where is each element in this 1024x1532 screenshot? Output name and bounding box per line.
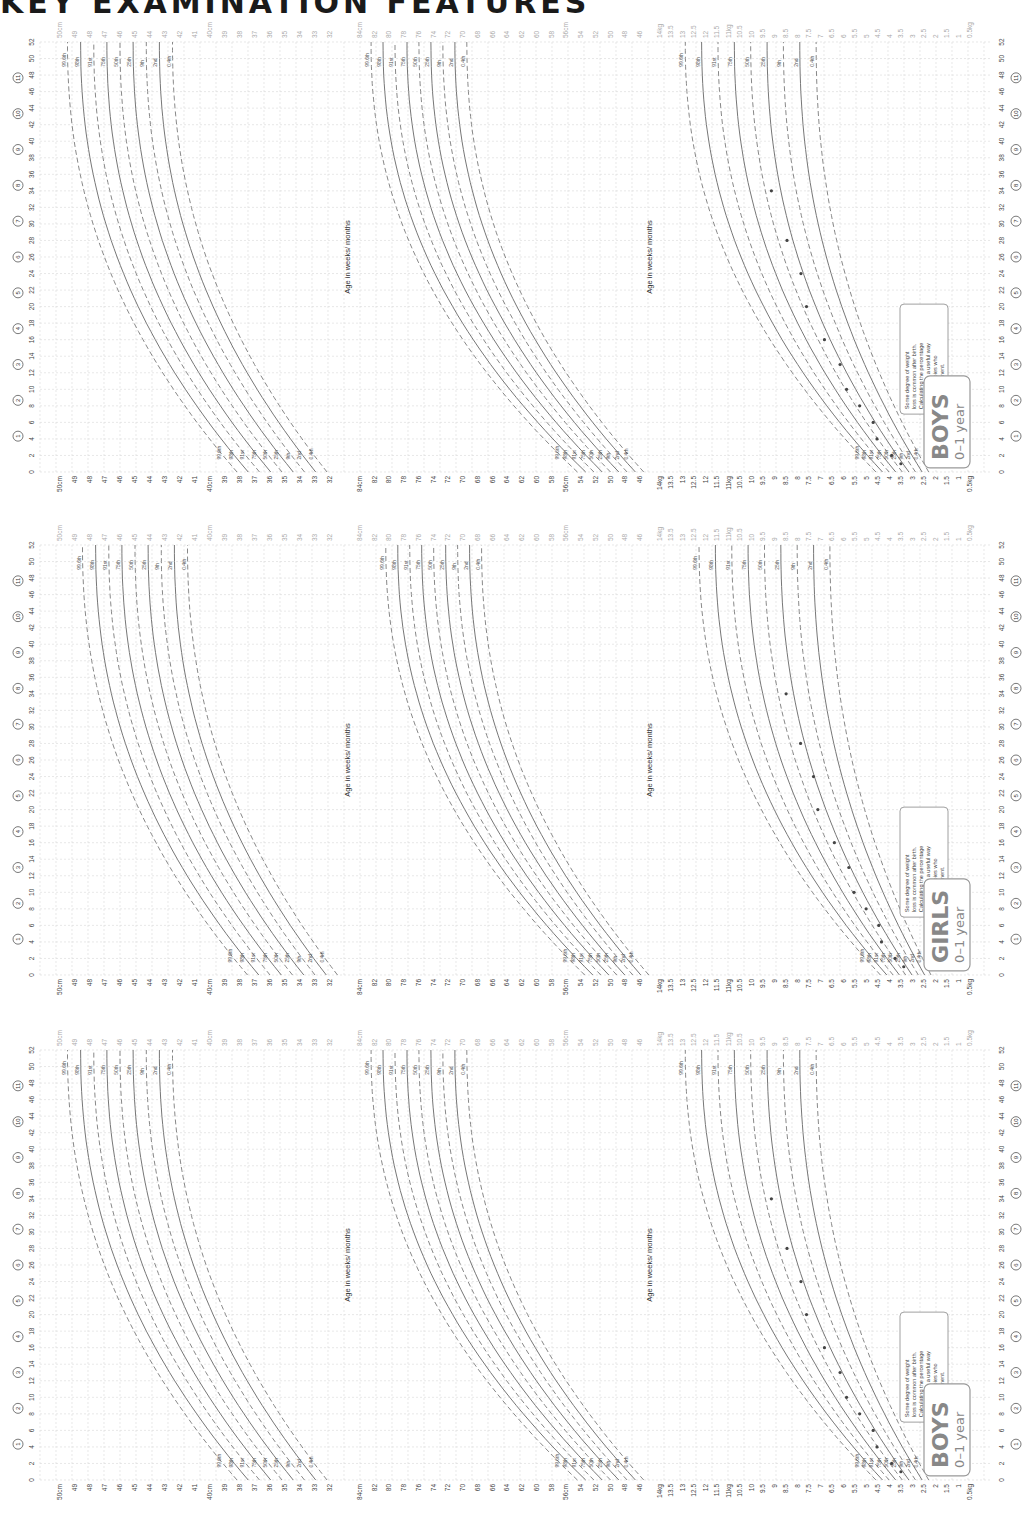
svg-text:99.6th: 99.6th [364, 53, 370, 67]
svg-text:16: 16 [28, 839, 35, 847]
svg-text:6: 6 [998, 1428, 1005, 1432]
svg-text:52: 52 [592, 979, 599, 987]
svg-text:43: 43 [161, 1484, 168, 1492]
svg-text:24: 24 [28, 1278, 35, 1286]
growth-chart-boys-top: 0022446688101012121414161618182020222224… [0, 22, 1024, 512]
svg-text:13.5: 13.5 [667, 1033, 674, 1046]
svg-text:18: 18 [28, 319, 35, 327]
svg-text:9: 9 [771, 1042, 778, 1046]
svg-text:0.4th: 0.4th [916, 951, 922, 962]
svg-text:99.6th: 99.6th [859, 948, 865, 962]
svg-text:58: 58 [548, 1038, 555, 1046]
svg-text:4: 4 [998, 940, 1005, 944]
svg-text:50th: 50th [744, 57, 750, 67]
svg-text:34: 34 [296, 476, 303, 484]
svg-text:0: 0 [998, 1478, 1005, 1482]
svg-text:11.5: 11.5 [713, 476, 720, 489]
svg-text:66: 66 [489, 30, 496, 38]
svg-text:46: 46 [998, 591, 1005, 599]
measurement-dot [875, 1445, 878, 1448]
svg-text:46: 46 [116, 979, 123, 987]
svg-text:13: 13 [679, 979, 686, 987]
svg-text:5: 5 [863, 1484, 870, 1488]
chart-badge: GIRLS0–1 year [924, 879, 970, 971]
svg-text:5.5: 5.5 [851, 29, 858, 38]
svg-text:42: 42 [28, 121, 35, 129]
growth-chart-svg: 0022446688101012121414161618182020222224… [0, 22, 1024, 512]
svg-text:75th: 75th [115, 560, 121, 570]
svg-text:52: 52 [592, 1038, 599, 1046]
svg-text:91st: 91st [873, 953, 879, 963]
svg-text:6: 6 [840, 34, 847, 38]
svg-text:9th: 9th [898, 452, 904, 459]
svg-text:5.5: 5.5 [851, 476, 858, 485]
svg-text:10: 10 [1013, 110, 1019, 117]
svg-text:37: 37 [251, 1484, 258, 1492]
svg-text:36: 36 [28, 170, 35, 178]
svg-text:62: 62 [518, 1038, 525, 1046]
svg-text:98th: 98th [866, 953, 872, 963]
svg-text:4.5: 4.5 [874, 29, 881, 38]
svg-text:11kg: 11kg [725, 1484, 733, 1498]
svg-text:20: 20 [28, 806, 35, 814]
svg-text:41: 41 [191, 1484, 198, 1492]
svg-text:34: 34 [28, 690, 35, 698]
svg-text:45: 45 [131, 30, 138, 38]
svg-text:72: 72 [444, 30, 451, 38]
svg-text:44: 44 [28, 1112, 35, 1120]
svg-text:42: 42 [176, 979, 183, 987]
svg-text:98th: 98th [89, 560, 95, 570]
svg-text:6.5: 6.5 [828, 532, 835, 541]
age-axis: 0022446688101012121414161618182020222224… [13, 541, 1021, 977]
svg-text:60: 60 [533, 30, 540, 38]
svg-text:0.4th: 0.4th [319, 951, 325, 962]
svg-text:34: 34 [296, 1484, 303, 1492]
svg-text:49: 49 [71, 1484, 78, 1492]
svg-text:75th: 75th [727, 57, 733, 67]
svg-text:8: 8 [794, 476, 801, 480]
svg-text:74: 74 [430, 533, 437, 541]
svg-text:66: 66 [489, 533, 496, 541]
svg-text:13: 13 [679, 1484, 686, 1492]
svg-text:12.5: 12.5 [690, 979, 697, 992]
svg-text:50: 50 [28, 1063, 35, 1071]
svg-text:10.5: 10.5 [736, 25, 743, 38]
svg-text:52: 52 [998, 38, 1005, 46]
svg-text:82: 82 [371, 1038, 378, 1046]
svg-text:7.5: 7.5 [805, 1484, 812, 1493]
svg-text:11.5: 11.5 [713, 25, 720, 38]
svg-text:10.5: 10.5 [736, 476, 743, 489]
svg-text:25th: 25th [141, 560, 147, 570]
svg-text:40cm: 40cm [206, 1030, 213, 1046]
measurement-dot [852, 891, 855, 894]
svg-text:8.5: 8.5 [782, 1484, 789, 1493]
svg-text:8: 8 [998, 1412, 1005, 1416]
svg-text:9th: 9th [139, 60, 145, 67]
measurement-dot [858, 404, 861, 407]
svg-text:2: 2 [932, 1484, 939, 1488]
svg-text:60: 60 [533, 533, 540, 541]
svg-text:50: 50 [607, 1038, 614, 1046]
svg-text:48: 48 [998, 574, 1005, 582]
svg-text:13: 13 [679, 533, 686, 541]
svg-text:12.5: 12.5 [690, 1484, 697, 1497]
svg-text:1: 1 [955, 537, 962, 541]
svg-text:16: 16 [998, 839, 1005, 847]
svg-text:13.5: 13.5 [667, 1484, 674, 1497]
svg-text:98th: 98th [74, 1065, 80, 1075]
svg-text:14: 14 [28, 352, 35, 360]
svg-text:9th: 9th [451, 563, 457, 570]
svg-text:30: 30 [998, 723, 1005, 731]
svg-text:84cm: 84cm [356, 525, 363, 541]
svg-text:6: 6 [998, 923, 1005, 927]
svg-text:82: 82 [371, 476, 378, 484]
svg-text:26: 26 [998, 253, 1005, 261]
svg-text:34: 34 [296, 533, 303, 541]
svg-text:1: 1 [955, 979, 962, 983]
svg-text:91st: 91st [725, 560, 731, 570]
measurement-dot [902, 965, 905, 968]
svg-text:9: 9 [771, 1484, 778, 1488]
svg-text:84cm: 84cm [356, 1484, 363, 1500]
svg-text:50th: 50th [262, 1458, 268, 1468]
svg-text:36: 36 [28, 673, 35, 681]
